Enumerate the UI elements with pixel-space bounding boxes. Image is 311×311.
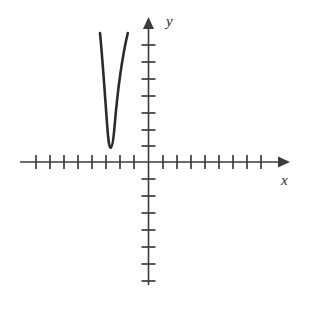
parabola-curve [100, 33, 128, 148]
x-axis-arrowhead-icon [278, 157, 290, 168]
x-axis-label: x [280, 172, 288, 188]
coordinate-plane-svg: y x [0, 0, 311, 311]
x-axis [20, 155, 290, 169]
graph-figure: y x [0, 0, 311, 311]
y-axis-label: y [164, 13, 173, 29]
y-axis-arrowhead-icon [143, 17, 154, 29]
parabola-path [100, 33, 128, 148]
y-axis [142, 17, 156, 285]
